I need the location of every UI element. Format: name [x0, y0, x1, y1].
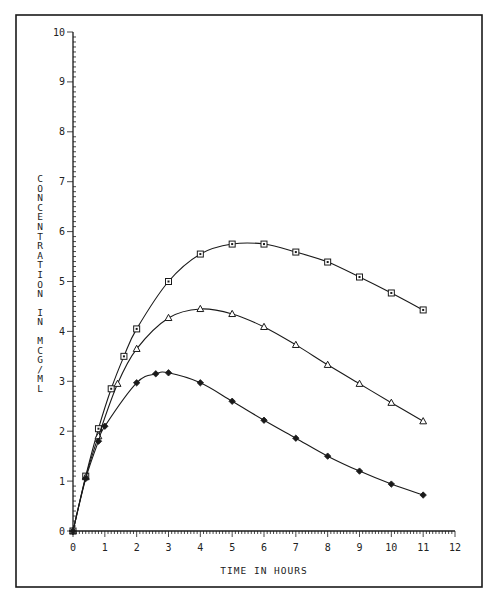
x-axis-title: TIME IN HOURS: [220, 565, 307, 576]
series-line: [73, 243, 423, 531]
x-tick-label: 12: [449, 542, 461, 553]
y-axis-title: CONCENTRATIONINMCG/ML: [37, 173, 43, 394]
diamond-marker-icon: [420, 492, 426, 498]
triangle-marker-icon: [324, 361, 331, 367]
series-line: [73, 372, 423, 531]
square-marker-dot: [359, 276, 361, 278]
y-tick-label: 4: [59, 326, 65, 337]
y-tick-label: 7: [59, 176, 65, 187]
data-series: [70, 241, 427, 534]
y-tick-label: 3: [59, 376, 65, 387]
square-marker-dot: [136, 328, 138, 330]
diamond-marker-icon: [356, 468, 362, 474]
triangle-marker-icon: [114, 380, 121, 386]
triangle-marker-icon: [292, 341, 299, 347]
x-tick-label: 1: [102, 542, 108, 553]
y-axis: 012345678910: [53, 27, 76, 537]
x-axis: 0123456789101112: [69, 531, 461, 553]
diamond-marker-icon: [324, 453, 330, 459]
square-marker-dot: [199, 253, 201, 255]
diamond-marker-icon: [261, 417, 267, 423]
square-marker-dot: [295, 251, 297, 253]
square-marker-dot: [110, 388, 112, 390]
x-tick-label: 0: [70, 542, 76, 553]
x-tick-label: 7: [293, 542, 299, 553]
series-triangle: [70, 305, 427, 533]
series-diamond: [70, 370, 427, 535]
diamond-marker-icon: [293, 435, 299, 441]
chart-frame: [16, 15, 482, 587]
square-marker-dot: [422, 309, 424, 311]
y-tick-label: 2: [59, 426, 65, 437]
diamond-marker-icon: [165, 370, 171, 376]
triangle-marker-icon: [356, 380, 363, 386]
y-tick-label: 9: [59, 76, 65, 87]
square-marker-dot: [97, 428, 99, 430]
diamond-marker-icon: [229, 398, 235, 404]
y-tick-label: 0: [59, 526, 65, 537]
y-tick-label: 10: [53, 27, 65, 38]
y-tick-label: 5: [59, 276, 65, 287]
series-line: [73, 309, 423, 531]
series-square: [70, 241, 426, 534]
square-marker-dot: [390, 292, 392, 294]
y-axis-title-letter: N: [37, 288, 43, 299]
y-tick-label: 6: [59, 226, 65, 237]
x-tick-label: 9: [356, 542, 362, 553]
square-marker-dot: [231, 243, 233, 245]
triangle-marker-icon: [388, 399, 395, 405]
x-tick-label: 8: [325, 542, 331, 553]
triangle-marker-icon: [165, 314, 172, 320]
diamond-marker-icon: [197, 380, 203, 386]
x-tick-label: 5: [229, 542, 235, 553]
square-marker-dot: [263, 243, 265, 245]
x-tick-label: 6: [261, 542, 267, 553]
triangle-marker-icon: [261, 323, 268, 329]
pharmacokinetic-chart: 012345678910 0123456789101112 CONCENTRAT…: [0, 0, 497, 602]
x-tick-label: 11: [417, 542, 429, 553]
y-axis-title-letter: N: [37, 316, 43, 327]
y-tick-label: 8: [59, 126, 65, 137]
triangle-marker-icon: [420, 418, 427, 424]
diamond-marker-icon: [388, 481, 394, 487]
x-tick-label: 10: [385, 542, 397, 553]
x-tick-label: 4: [197, 542, 203, 553]
y-tick-label: 1: [59, 476, 65, 487]
square-marker-dot: [123, 355, 125, 357]
x-tick-label: 2: [134, 542, 140, 553]
y-axis-title-letter: L: [37, 383, 43, 394]
square-marker-dot: [168, 281, 170, 283]
diamond-marker-icon: [153, 371, 159, 377]
x-tick-label: 3: [165, 542, 171, 553]
square-marker-dot: [327, 261, 329, 263]
